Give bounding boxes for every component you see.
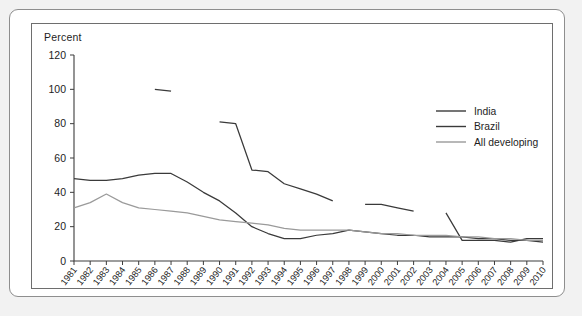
figure-card: Percent 02040608010012019811982198319841… [9, 9, 565, 297]
series-line-brazil [446, 213, 543, 242]
x-tick-label: 2000 [366, 265, 386, 287]
y-tick-label: 80 [54, 117, 66, 129]
x-tick-label: 1983 [91, 265, 111, 287]
x-tick-label: 2001 [382, 265, 402, 287]
y-tick-label: 60 [54, 152, 66, 164]
x-tick-label: 2010 [528, 265, 548, 287]
x-tick-label: 1985 [123, 265, 143, 287]
x-tick-label: 2002 [398, 265, 418, 287]
x-tick-label: 1987 [156, 265, 176, 287]
x-tick-label: 1991 [220, 265, 240, 287]
y-tick-label: 120 [48, 49, 66, 61]
x-tick-label: 1988 [172, 265, 192, 287]
x-tick-label: 1998 [334, 265, 354, 287]
plot-area: 0204060801001201981198219831984198519861… [32, 24, 554, 290]
x-tick-label: 1993 [253, 265, 273, 287]
x-tick-label: 2003 [414, 265, 434, 287]
x-tick-label: 1999 [350, 265, 370, 287]
x-tick-label: 2007 [479, 265, 499, 287]
y-tick-label: 40 [54, 186, 66, 198]
x-tick-label: 1995 [285, 265, 305, 287]
series-line-brazil [220, 122, 333, 201]
x-tick-label: 1990 [204, 265, 224, 287]
series-line-brazil [155, 89, 171, 91]
y-tick-label: 100 [48, 83, 66, 95]
x-tick-label: 1984 [107, 265, 127, 287]
x-tick-label: 2005 [447, 265, 467, 287]
chart-figure: Percent 02040608010012019811982198319841… [31, 23, 553, 289]
x-tick-label: 2006 [463, 265, 483, 287]
x-tick-label: 1986 [139, 265, 159, 287]
line-chart: 0204060801001201981198219831984198519861… [32, 24, 554, 290]
x-tick-label: 1989 [188, 265, 208, 287]
x-tick-label: 2008 [495, 265, 515, 287]
x-tick-label: 2004 [431, 265, 451, 287]
y-tick-label: 0 [60, 255, 66, 267]
x-tick-label: 1982 [75, 265, 95, 287]
y-tick-label: 20 [54, 220, 66, 232]
x-tick-label: 1992 [237, 265, 257, 287]
series-line-all-developing [74, 194, 543, 240]
legend-label-all-developing: All developing [474, 137, 538, 148]
x-tick-label: 1994 [269, 265, 289, 287]
x-tick-label: 2009 [511, 265, 531, 287]
x-tick-label: 1997 [317, 265, 337, 287]
legend-label-india: India [474, 106, 497, 117]
legend-label-brazil: Brazil [474, 121, 500, 132]
x-tick-label: 1981 [59, 265, 79, 287]
x-tick-label: 1996 [301, 265, 321, 287]
series-line-brazil [365, 204, 414, 211]
